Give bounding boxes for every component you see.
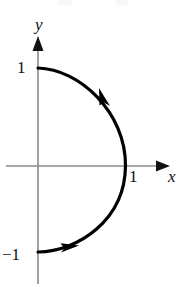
y-axis-arrowhead-icon — [33, 36, 44, 51]
x-axis-label: x — [168, 168, 176, 185]
semicircle-curve — [38, 68, 126, 252]
y-axis-label: y — [35, 16, 43, 33]
math-figure: y x 1 −1 1 — [0, 0, 187, 287]
y-tick-label-one: 1 — [17, 59, 26, 76]
x-tick-label-one: 1 — [129, 168, 138, 185]
plot-canvas — [0, 0, 187, 287]
y-tick-label-negative-one: −1 — [2, 246, 20, 263]
